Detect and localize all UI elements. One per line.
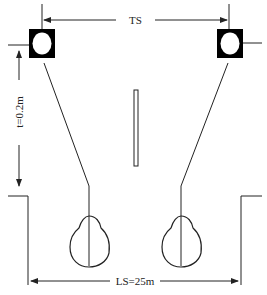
left-speaker-icon [8, 29, 55, 58]
left-head-outline [70, 216, 109, 267]
ts-label: TS [129, 14, 142, 26]
t-label: t=0.2m [13, 96, 25, 128]
left-wall [8, 196, 28, 285]
right-wall [241, 196, 262, 285]
listening-setup-diagram: TS t=0.2m LS=25m [0, 0, 267, 295]
ls-dimension: LS=25m [31, 275, 238, 287]
center-divider-bar [134, 90, 138, 166]
right-head-outline [162, 216, 201, 267]
left-path-line [44, 63, 89, 266]
right-path-line [181, 63, 228, 266]
ts-dimension: TS [42, 4, 229, 29]
right-speaker-icon [217, 29, 262, 58]
ls-label: LS=25m [116, 275, 155, 287]
t-dimension: t=0.2m [13, 51, 25, 186]
